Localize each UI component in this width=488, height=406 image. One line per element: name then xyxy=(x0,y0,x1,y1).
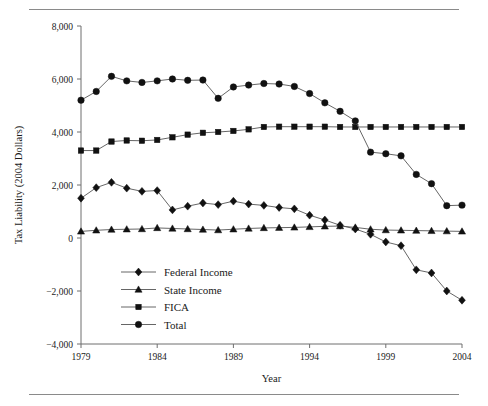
data-point xyxy=(398,242,405,250)
y-tick-label: 2,000 xyxy=(52,181,74,191)
data-point xyxy=(154,137,159,142)
data-point xyxy=(383,151,389,157)
data-point xyxy=(246,127,251,132)
data-point xyxy=(429,124,434,129)
data-point xyxy=(245,200,252,208)
data-point xyxy=(306,90,312,96)
data-point xyxy=(337,108,343,114)
data-point xyxy=(398,124,403,129)
data-point xyxy=(322,124,327,129)
data-point xyxy=(230,197,237,205)
legend-label: Total xyxy=(164,319,186,331)
data-point xyxy=(413,171,419,177)
series-fica xyxy=(78,124,464,153)
data-point xyxy=(322,100,328,106)
data-point xyxy=(123,184,130,192)
x-tick-label: 1994 xyxy=(300,352,319,362)
data-point xyxy=(231,128,236,133)
data-point xyxy=(170,135,175,140)
data-point xyxy=(413,266,420,274)
data-point xyxy=(459,124,464,129)
legend-marker-square xyxy=(136,304,141,309)
data-point xyxy=(78,97,84,103)
data-point xyxy=(367,149,373,155)
data-point xyxy=(154,224,161,230)
y-tick-label: 8,000 xyxy=(52,22,74,32)
x-tick-label: 1989 xyxy=(224,352,243,362)
data-point xyxy=(292,124,297,129)
data-point xyxy=(200,77,206,83)
data-point xyxy=(184,202,191,210)
data-point xyxy=(108,73,114,79)
data-point xyxy=(200,130,205,135)
data-point xyxy=(78,194,85,202)
series-federal-income xyxy=(78,178,466,304)
data-point xyxy=(337,124,342,129)
data-point xyxy=(291,83,297,89)
data-point xyxy=(93,88,99,94)
data-point xyxy=(184,77,190,83)
legend-label: State Income xyxy=(164,284,222,296)
y-tick-label: −4,000 xyxy=(46,340,73,350)
x-tick-label: 2004 xyxy=(453,352,472,362)
data-point xyxy=(307,124,312,129)
data-point xyxy=(139,138,144,143)
chart-legend: Federal IncomeState IncomeFICATotal xyxy=(121,266,233,331)
data-point xyxy=(383,124,388,129)
legend-marker-diamond xyxy=(135,268,142,276)
data-point xyxy=(414,124,419,129)
data-point xyxy=(94,148,99,153)
x-tick-label: 1984 xyxy=(148,352,167,362)
data-point xyxy=(124,138,129,143)
data-point xyxy=(382,238,389,246)
data-point xyxy=(78,148,83,153)
data-point xyxy=(459,296,466,304)
data-point xyxy=(93,184,100,192)
data-point xyxy=(276,204,283,212)
legend-marker-circle xyxy=(135,321,141,327)
legend-label: FICA xyxy=(164,301,189,313)
x-axis-title-text: Year xyxy=(262,373,282,384)
data-point xyxy=(352,118,358,124)
data-point xyxy=(108,178,115,186)
data-point xyxy=(444,202,450,208)
legend-label: Federal Income xyxy=(164,266,233,278)
y-tick-label: 0 xyxy=(68,234,73,244)
series-state-income xyxy=(77,223,465,235)
data-point xyxy=(291,205,298,213)
data-point xyxy=(123,78,129,84)
data-point xyxy=(169,76,175,82)
data-point xyxy=(261,124,266,129)
data-point xyxy=(276,124,281,129)
x-tick-label: 1999 xyxy=(376,352,395,362)
figure-container: −4,000−2,00002,0004,0006,0008,0001979198… xyxy=(0,0,488,406)
data-point xyxy=(215,95,221,101)
data-point xyxy=(245,82,251,88)
data-point xyxy=(215,201,222,209)
data-point xyxy=(428,180,434,186)
data-point xyxy=(215,129,220,134)
data-point xyxy=(444,124,449,129)
y-axis-title-text: Tax Liability (2004 Dollars) xyxy=(13,125,25,244)
data-point xyxy=(398,153,404,159)
data-point xyxy=(368,124,373,129)
data-point xyxy=(276,81,282,87)
data-point xyxy=(459,202,465,208)
y-tick-label: −2,000 xyxy=(46,287,73,297)
data-point xyxy=(261,80,267,86)
data-point xyxy=(230,84,236,90)
chart-plot-area: −4,000−2,00002,0004,0006,0008,0001979198… xyxy=(0,0,488,406)
data-point xyxy=(139,187,146,195)
series-line xyxy=(81,226,462,231)
data-point xyxy=(154,78,160,84)
series-line xyxy=(81,127,462,151)
data-point xyxy=(139,79,145,85)
x-tick-label: 1979 xyxy=(72,352,91,362)
y-tick-label: 4,000 xyxy=(52,128,74,138)
data-point xyxy=(306,211,313,219)
data-point xyxy=(200,199,207,207)
series-line xyxy=(81,182,462,300)
data-point xyxy=(185,132,190,137)
y-tick-label: 6,000 xyxy=(52,75,74,85)
data-point xyxy=(260,201,267,209)
